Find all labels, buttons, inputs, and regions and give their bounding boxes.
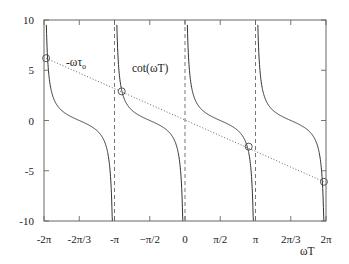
y-tick-label: 5 — [29, 64, 35, 76]
x-tick-label: -2π — [37, 233, 52, 245]
y-tick-label: -5 — [25, 165, 35, 177]
x-tick-label: −π/2 — [140, 233, 160, 245]
x-axis-label: ωT — [300, 245, 315, 257]
cotangent-chart: -2π-2π/3-π−π/20π/2π2π/32π 1050-5-10 cot(… — [0, 0, 349, 264]
asymptote-lines — [115, 20, 256, 221]
tau-label-subscript: o — [82, 62, 86, 71]
x-tick-label: 2π — [320, 233, 332, 245]
y-tick-label: 0 — [29, 115, 35, 127]
cot-branch — [117, 25, 183, 221]
x-tick-label: 2π/3 — [281, 233, 301, 245]
tau-line-label: -ωτo — [66, 56, 86, 71]
x-tick-label: π — [253, 233, 259, 245]
y-tick-label: 10 — [23, 14, 35, 26]
x-tick-label: -2π/3 — [68, 233, 92, 245]
cot-branch — [46, 25, 112, 221]
y-tick-labels: 1050-5-10 — [19, 14, 34, 227]
x-tick-labels: -2π-2π/3-π−π/20π/2π2π/32π — [37, 233, 332, 245]
x-tick-label: π/2 — [213, 233, 227, 245]
x-tick-label: 0 — [182, 233, 188, 245]
cot-branch — [258, 25, 324, 221]
intersection-marker — [245, 143, 252, 150]
y-tick-label: -10 — [19, 215, 34, 227]
cot-label: cot(ωT) — [132, 62, 168, 75]
x-tick-label: -π — [110, 233, 120, 245]
tau-label-main: -ωτ — [66, 56, 82, 68]
cot-branch — [187, 25, 253, 221]
